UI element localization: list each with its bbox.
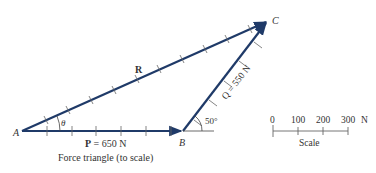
scale-title: Scale xyxy=(299,138,320,148)
point-c-label: C xyxy=(272,15,279,26)
scale-tick-200: 200 xyxy=(316,115,331,125)
point-b-label: B xyxy=(179,137,185,148)
caption: Force triangle (to scale) xyxy=(58,152,153,164)
scale-unit: N xyxy=(361,115,368,125)
scale-tick-0: 0 xyxy=(270,115,275,125)
scale-bar: 0 100 200 300 N Scale xyxy=(270,115,368,148)
scale-tick-300: 300 xyxy=(341,115,356,125)
vector-p-label: P = 650 N xyxy=(85,138,126,149)
vector-r-label: R xyxy=(135,64,143,75)
vector-p-value: = 650 N xyxy=(91,138,126,149)
vector-q xyxy=(183,23,266,131)
vector-r xyxy=(22,22,266,131)
theta-label: θ xyxy=(61,118,66,128)
vector-q-label: Q = 550 N xyxy=(220,63,253,101)
scale-tick-100: 100 xyxy=(291,115,306,125)
beta-label: 50° xyxy=(205,116,218,126)
point-a-label: A xyxy=(12,127,20,138)
theta-arc xyxy=(57,116,60,131)
force-triangle-diagram: A B C R P = 650 N Q = 550 N θ 50° Force … xyxy=(0,0,376,173)
